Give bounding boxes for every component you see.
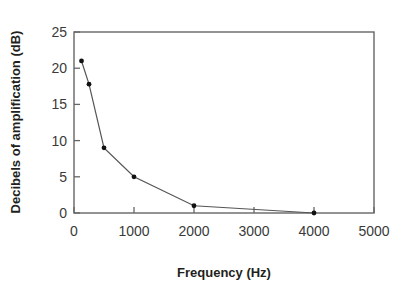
y-tick-label: 10: [51, 133, 67, 149]
x-tick-label: 1000: [118, 223, 149, 239]
y-tick-label: 25: [51, 24, 67, 40]
y-tick-label: 0: [59, 205, 67, 221]
data-line-amplification: [82, 61, 315, 213]
x-tick-label: 3000: [238, 223, 269, 239]
x-axis-title: Frequency (Hz): [177, 265, 271, 280]
y-tick-label: 5: [59, 169, 67, 185]
x-tick-label: 5000: [358, 223, 389, 239]
data-point: [79, 59, 84, 64]
x-tick-label: 4000: [298, 223, 329, 239]
data-point: [87, 82, 92, 87]
y-axis-title: Decibels of amplification (dB): [8, 31, 23, 214]
y-axis-tick-labels: 0510152025: [51, 24, 67, 221]
y-axis-ticks: [74, 32, 80, 213]
amplification-vs-frequency-chart: 0510152025 010002000300040005000 Frequen…: [0, 0, 408, 290]
y-tick-label: 20: [51, 60, 67, 76]
x-axis-tick-labels: 010002000300040005000: [70, 223, 390, 239]
x-tick-label: 0: [70, 223, 78, 239]
data-point: [132, 174, 137, 179]
data-point-markers: [79, 59, 316, 216]
data-point: [312, 211, 317, 216]
x-tick-label: 2000: [178, 223, 209, 239]
data-point: [192, 203, 197, 208]
chart-figure: 0510152025 010002000300040005000 Frequen…: [0, 0, 408, 290]
y-tick-label: 15: [51, 96, 67, 112]
data-point: [102, 145, 107, 150]
plot-frame: [74, 32, 374, 213]
